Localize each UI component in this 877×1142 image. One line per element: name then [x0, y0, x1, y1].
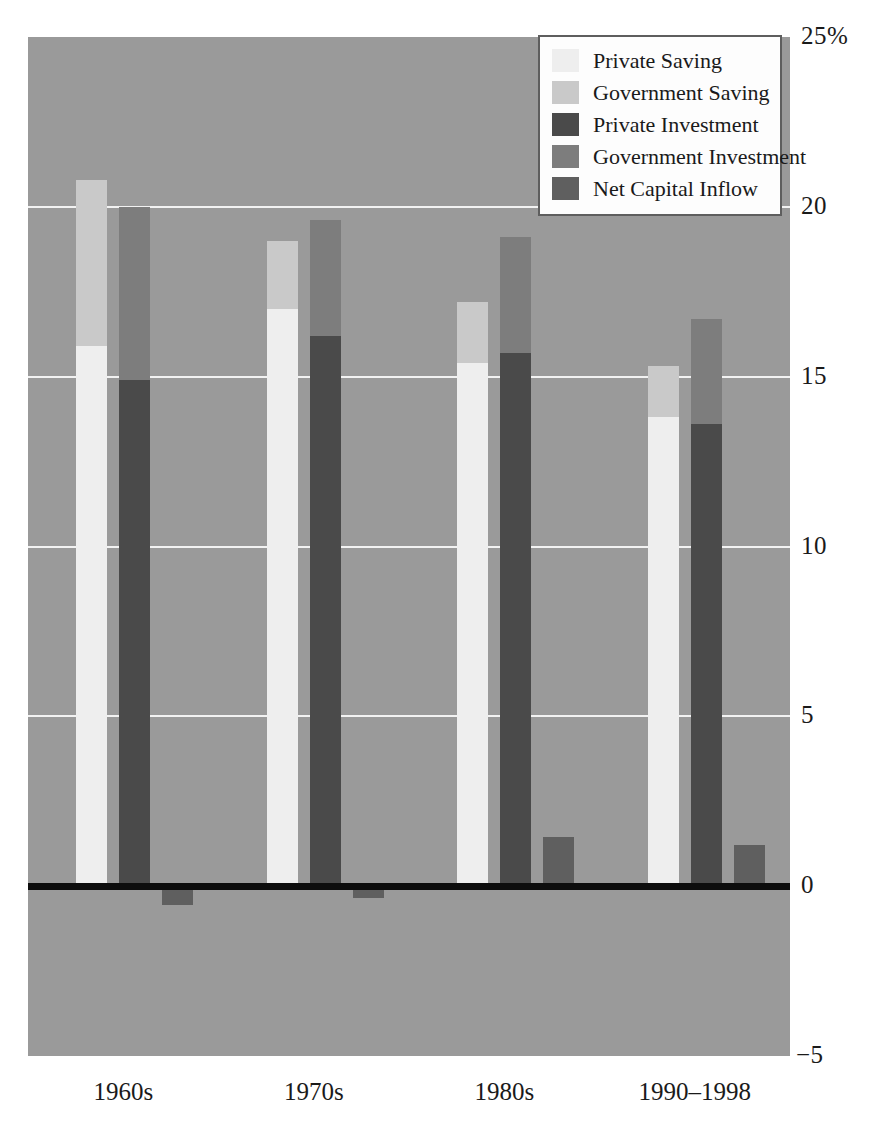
- bar-investment-1980s-segment-1: [500, 237, 531, 352]
- bar-investment-1990–1998: [691, 319, 722, 886]
- bar-investment-1960s-segment-1: [119, 207, 150, 380]
- legend-swatch-icon-4: [552, 177, 579, 200]
- legend-swatch-icon-2: [552, 113, 579, 136]
- bar-saving-1980s-segment-1: [457, 302, 488, 363]
- bar-saving-1960s-segment-1: [76, 180, 107, 346]
- bar-saving-1980s-segment-0: [457, 363, 488, 886]
- chart-legend: Private SavingGovernment SavingPrivate I…: [538, 35, 782, 216]
- legend-swatch-icon-3: [552, 145, 579, 168]
- y-axis-tick-label-15: 15: [801, 362, 827, 390]
- bar-investment-1970s: [310, 220, 341, 886]
- bar-investment-1960s: [119, 207, 150, 886]
- legend-item-3[interactable]: Government Investment: [552, 143, 768, 170]
- y-axis: 25%20151050−5: [795, 0, 877, 1142]
- legend-item-label: Net Capital Inflow: [593, 176, 758, 202]
- bar-investment-1980s: [500, 237, 531, 886]
- bar-investment-1990–1998-segment-0: [691, 424, 722, 886]
- bar-investment-1980s-segment-0: [500, 353, 531, 886]
- bar-saving-1970s: [267, 241, 298, 886]
- bar-net-capital-inflow-1990–1998: [734, 845, 765, 886]
- legend-swatch-icon-0: [552, 49, 579, 72]
- bar-investment-1970s-segment-1: [310, 220, 341, 335]
- legend-item-1[interactable]: Government Saving: [552, 79, 768, 106]
- zero-axis-line: [28, 883, 790, 890]
- bar-saving-1990–1998-segment-0: [648, 417, 679, 886]
- bar-investment-1990–1998-segment-1: [691, 319, 722, 424]
- bar-saving-1990–1998-segment-1: [648, 366, 679, 417]
- bar-saving-1970s-segment-1: [267, 241, 298, 309]
- bar-saving-1960s: [76, 180, 107, 887]
- legend-item-0[interactable]: Private Saving: [552, 47, 768, 74]
- bar-saving-1960s-segment-0: [76, 346, 107, 886]
- legend-item-2[interactable]: Private Investment: [552, 111, 768, 138]
- bar-investment-1960s-segment-0: [119, 380, 150, 886]
- bar-saving-1990–1998: [648, 366, 679, 886]
- bar-net-capital-inflow-1980s: [543, 837, 574, 886]
- bar-saving-1970s-segment-0: [267, 309, 298, 886]
- x-axis-tick-label-0: 1960s: [28, 1078, 219, 1106]
- legend-item-4[interactable]: Net Capital Inflow: [552, 175, 768, 202]
- legend-item-label: Private Saving: [593, 48, 722, 74]
- bar-investment-1970s-segment-0: [310, 336, 341, 886]
- chart-figure: 25%20151050−5 1960s1970s1980s1990–1998 P…: [0, 0, 877, 1142]
- legend-swatch-icon-1: [552, 81, 579, 104]
- y-axis-tick-label-5: 5: [801, 701, 814, 729]
- legend-item-label: Government Saving: [593, 80, 770, 106]
- legend-item-label: Government Investment: [593, 144, 806, 170]
- y-axis-tick-label-20: 20: [801, 192, 827, 220]
- y-axis-tick-label-0: 0: [801, 871, 814, 899]
- bar-saving-1980s: [457, 302, 488, 886]
- x-axis-tick-label-3: 1990–1998: [600, 1078, 791, 1106]
- y-axis-tick-label--5: −5: [796, 1041, 824, 1069]
- x-axis: 1960s1970s1980s1990–1998: [28, 1078, 790, 1124]
- x-axis-tick-label-2: 1980s: [409, 1078, 600, 1106]
- x-axis-tick-label-1: 1970s: [219, 1078, 410, 1106]
- y-axis-tick-label-10: 10: [801, 532, 827, 560]
- legend-item-label: Private Investment: [593, 112, 759, 138]
- y-axis-tick-label-25: 25%: [801, 22, 848, 50]
